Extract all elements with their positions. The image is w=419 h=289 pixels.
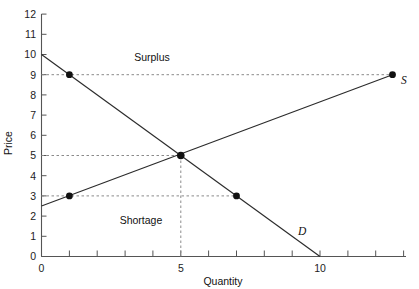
y-tick-label-2: 2	[30, 210, 36, 222]
y-tick-label-3: 3	[30, 190, 36, 202]
curves-group	[42, 55, 393, 257]
y-tick-label-5: 5	[30, 149, 36, 161]
x-tick-label-10: 10	[314, 262, 326, 274]
y-tick-label-12: 12	[24, 8, 36, 20]
chart-canvas: 0 1 2 3 4 5 6 7 8 9 10 11 12	[0, 0, 419, 289]
datapoint-supply-14-9	[389, 71, 396, 78]
x-axis-title: Quantity	[203, 275, 243, 287]
y-tick-label-6: 6	[30, 129, 36, 141]
datapoint-supply-1-3	[66, 193, 73, 200]
supply-demand-chart: 0 1 2 3 4 5 6 7 8 9 10 11 12	[0, 0, 419, 289]
demand-curve-label: D	[297, 225, 307, 237]
shortage-label: Shortage	[120, 214, 163, 226]
x-axis-ticks	[42, 251, 404, 257]
y-tick-label-1: 1	[30, 230, 36, 242]
supply-curve-label: S	[401, 74, 407, 86]
supply-curve	[42, 75, 393, 206]
y-tick-label-4: 4	[30, 170, 36, 182]
y-axis-ticks	[42, 14, 47, 256]
datapoint-demand-7-3	[233, 193, 240, 200]
y-tick-label-8: 8	[30, 89, 36, 101]
x-tick-label-5: 5	[178, 262, 184, 274]
y-axis-title: Price	[2, 131, 14, 155]
datapoint-equilibrium-5-5	[177, 152, 185, 160]
y-axis-tick-labels: 0 1 2 3 4 5 6 7 8 9 10 11 12	[24, 8, 36, 262]
datapoint-demand-1-9	[66, 71, 73, 78]
x-axis-tick-labels: 0 5 10	[39, 262, 326, 274]
axes-group	[42, 14, 407, 257]
x-tick-label-0: 0	[39, 262, 45, 274]
y-tick-label-11: 11	[25, 28, 36, 40]
y-tick-label-0: 0	[30, 250, 36, 262]
y-tick-label-9: 9	[30, 69, 36, 81]
y-tick-label-7: 7	[30, 109, 36, 121]
surplus-label: Surplus	[134, 51, 170, 63]
y-tick-label-10: 10	[24, 48, 36, 60]
guide-lines-group	[42, 75, 393, 257]
